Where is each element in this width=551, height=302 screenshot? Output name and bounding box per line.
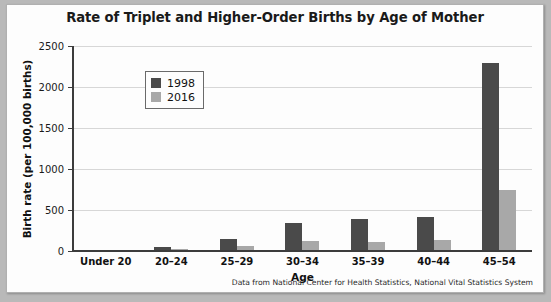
legend-item: 1998 xyxy=(151,76,195,90)
y-tick-label: 500 xyxy=(45,205,64,216)
gridline xyxy=(73,128,532,129)
x-tick-label: 30–34 xyxy=(286,256,319,267)
bar-group xyxy=(401,217,467,251)
bar xyxy=(482,63,499,251)
y-tick-label: 2500 xyxy=(39,41,64,52)
bar-group xyxy=(466,63,532,251)
plot-inner: 05001000150020002500 xyxy=(73,46,532,251)
legend-label: 1998 xyxy=(167,77,195,90)
x-tick-label: 40–44 xyxy=(417,256,450,267)
legend-label: 2016 xyxy=(167,91,195,104)
chart-title: Rate of Triplet and Higher-Order Births … xyxy=(7,10,543,25)
y-axis-title: Birth rate (per 100,000 births) xyxy=(19,46,35,251)
plot-area: 05001000150020002500 xyxy=(73,46,532,251)
x-tick-label: 25–29 xyxy=(221,256,254,267)
gridline xyxy=(73,210,532,211)
y-tick-label: 1500 xyxy=(39,123,64,134)
legend-rows: 19982016 xyxy=(151,76,195,104)
bar xyxy=(285,223,302,251)
bar xyxy=(417,217,434,251)
legend-item: 2016 xyxy=(151,90,195,104)
x-tick-label: Under 20 xyxy=(80,256,132,267)
legend-swatch xyxy=(151,78,161,88)
y-tick-label: 2000 xyxy=(39,82,64,93)
legend-swatch xyxy=(151,92,161,102)
source-note: Data from National Center for Health Sta… xyxy=(232,278,533,287)
x-axis-line xyxy=(72,250,532,252)
x-tick-label: 35–39 xyxy=(352,256,385,267)
bar xyxy=(351,219,368,251)
chart-figure: Rate of Triplet and Higher-Order Births … xyxy=(6,4,544,293)
bar-group xyxy=(335,219,401,251)
y-axis-title-text: Birth rate (per 100,000 births) xyxy=(21,59,33,238)
x-tick-label: 20–24 xyxy=(155,256,188,267)
bar-group xyxy=(270,223,336,251)
gridline xyxy=(73,169,532,170)
y-tick-label: 1000 xyxy=(39,164,64,175)
x-tick-label: 45–54 xyxy=(483,256,516,267)
gridline xyxy=(73,87,532,88)
bar xyxy=(499,190,516,251)
y-axis-line xyxy=(72,46,74,251)
y-tick-label: 0 xyxy=(58,246,64,257)
chart-legend: 19982016 xyxy=(145,71,204,109)
gridline xyxy=(73,46,532,47)
